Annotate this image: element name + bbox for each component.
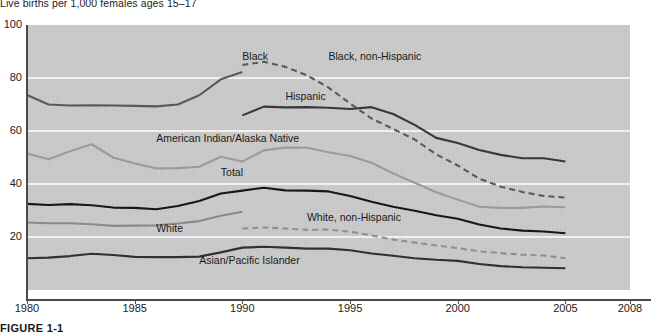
series-label-black: Black <box>242 50 268 62</box>
y-axis-line <box>26 25 28 300</box>
y-tick-20: 20 <box>0 230 22 242</box>
y-tick-80: 80 <box>0 71 22 83</box>
series-label-hispanic: Hispanic <box>285 90 325 102</box>
series-line-white <box>27 212 242 226</box>
series-line-american-indian-alaska-native <box>27 144 565 208</box>
y-tick-100: 100 <box>0 18 22 30</box>
figure-caption: FIGURE 1-1 <box>0 322 64 334</box>
figure-container: Live births per 1,000 females ages 15–17… <box>0 0 652 335</box>
series-label-white: White <box>156 222 183 234</box>
series-label-white-non-hispanic: White, non-Hispanic <box>307 211 401 223</box>
series-line-black <box>27 72 242 106</box>
y-tick-40: 40 <box>0 177 22 189</box>
series-label-american-indian-alaska-native: American Indian/Alaska Native <box>156 132 299 144</box>
x-axis-line <box>26 299 651 301</box>
chart-subtitle: Live births per 1,000 females ages 15–17 <box>0 0 197 9</box>
series-label-total: Total <box>221 166 243 178</box>
series-lines <box>27 25 630 290</box>
series-label-black-non-hispanic: Black, non-Hispanic <box>329 50 422 62</box>
plot-area <box>27 25 630 290</box>
y-tick-60: 60 <box>0 124 22 136</box>
series-label-asian-pacific-islander: Asian/Pacific Islander <box>199 254 299 266</box>
